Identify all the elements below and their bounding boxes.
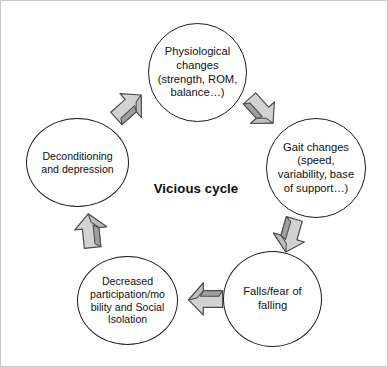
node-decreased-participation: Decreased participation/mo bility and So… xyxy=(77,256,178,345)
diagram-canvas: Physiological changes (strength, ROM, ba… xyxy=(1,1,388,367)
node-gait-changes-label: Gait changes (speed, variability, base o… xyxy=(271,141,361,196)
node-decreased-participation-label: Decreased participation/mo bility and So… xyxy=(82,275,173,327)
node-deconditioning-and-depression: Deconditioning and depression xyxy=(26,118,129,207)
arrow-participation-to-deconditioning xyxy=(66,207,117,258)
center-label: Vicious cycle xyxy=(131,181,261,196)
node-physiological-changes-label: Physiological changes (strength, ROM, ba… xyxy=(153,45,242,100)
node-falls-fear-of-falling: Falls/fear of falling xyxy=(223,251,322,347)
vicious-cycle-figure: Physiological changes (strength, ROM, ba… xyxy=(0,0,388,367)
node-deconditioning-and-depression-label: Deconditioning and depression xyxy=(31,150,124,176)
node-falls-fear-of-falling-label: Falls/fear of falling xyxy=(228,285,317,312)
node-gait-changes: Gait changes (speed, variability, base o… xyxy=(266,118,366,218)
node-physiological-changes: Physiological changes (strength, ROM, ba… xyxy=(148,23,247,122)
